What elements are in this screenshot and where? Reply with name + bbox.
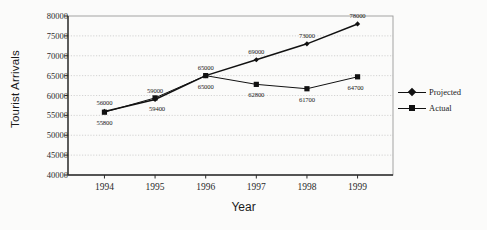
x-tick-label: 1997 bbox=[247, 182, 266, 192]
legend-marker-square-icon bbox=[398, 103, 426, 113]
marker-actual bbox=[203, 73, 208, 78]
marker-actual bbox=[304, 86, 309, 91]
legend-marker-diamond-icon bbox=[398, 87, 426, 97]
x-tick-label: 1999 bbox=[348, 182, 367, 192]
chart-legend: ProjectedActual bbox=[398, 84, 461, 116]
data-point-label: 73000 bbox=[299, 31, 315, 38]
legend-label: Projected bbox=[429, 87, 461, 97]
data-point-label: 56000 bbox=[96, 99, 112, 106]
series-line-actual bbox=[104, 76, 357, 113]
chart-container: Tourist Arrivals 40000450005000055000600… bbox=[0, 0, 487, 230]
x-tick-label: 1995 bbox=[146, 182, 165, 192]
data-point-label: 64700 bbox=[348, 83, 364, 90]
data-point-label: 61700 bbox=[299, 95, 315, 102]
data-point-label: 65000 bbox=[198, 63, 214, 70]
data-point-label: 62800 bbox=[248, 91, 264, 98]
marker-actual bbox=[355, 74, 360, 79]
marker-actual bbox=[254, 82, 259, 87]
marker-projected bbox=[254, 57, 259, 62]
data-point-label: 65000 bbox=[198, 82, 214, 89]
data-point-label: 59400 bbox=[149, 104, 165, 111]
data-point-label: 55800 bbox=[96, 119, 112, 126]
x-tick-label: 1994 bbox=[95, 182, 114, 192]
legend-item[interactable]: Projected bbox=[398, 84, 461, 100]
marker-projected bbox=[304, 41, 309, 46]
data-point-label: 59000 bbox=[147, 87, 163, 94]
marker-actual bbox=[102, 110, 107, 115]
x-tick-label: 1998 bbox=[297, 182, 316, 192]
legend-label: Actual bbox=[429, 103, 452, 113]
legend-item[interactable]: Actual bbox=[398, 100, 461, 116]
marker-actual bbox=[152, 95, 157, 100]
series-line-projected bbox=[104, 24, 357, 111]
x-axis-title: Year bbox=[0, 200, 487, 214]
data-point-label: 78000 bbox=[350, 11, 366, 18]
data-point-label: 69000 bbox=[248, 47, 264, 54]
x-tick-label: 1996 bbox=[196, 182, 215, 192]
marker-projected bbox=[355, 21, 360, 26]
